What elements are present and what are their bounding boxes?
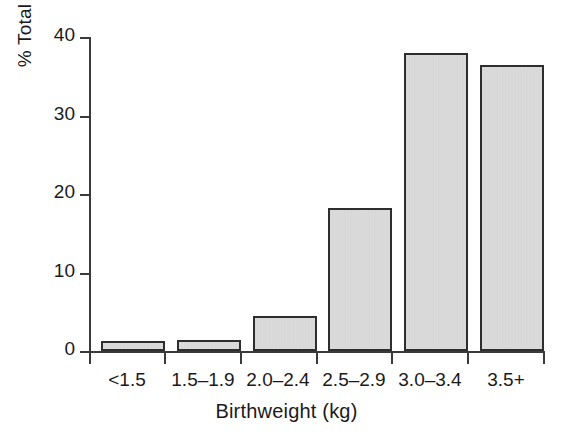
y-tick-label-10: 10 (54, 261, 75, 281)
y-tick-20: 20 (80, 194, 89, 196)
bar-0[interactable] (101, 341, 165, 351)
bar-5[interactable] (480, 65, 544, 351)
x-axis-title: Birthweight (kg) (0, 400, 573, 423)
plot-area: 0 10 20 30 40 <1.5 1.5–1.9 2.0–2.4 (89, 37, 543, 352)
y-tick-10: 10 (80, 273, 89, 275)
x-tick-1 (164, 353, 166, 364)
x-tick-5 (467, 353, 469, 364)
x-tick-2 (240, 353, 242, 364)
x-tick-label-3: 2.5–2.9 (310, 369, 398, 391)
y-tick-30: 30 (80, 116, 89, 118)
y-tick-label-20: 20 (54, 182, 75, 202)
y-tick-label-30: 30 (54, 104, 75, 124)
bar-3[interactable] (328, 208, 392, 351)
bar-2[interactable] (253, 316, 317, 351)
x-tick-label-0: <1.5 (83, 369, 171, 391)
x-tick-label-5: 3.5+ (462, 369, 550, 391)
bar-1[interactable] (177, 340, 241, 351)
y-tick-label-0: 0 (64, 339, 75, 359)
bar-4[interactable] (404, 53, 468, 351)
y-axis-title: % Total births (14, 0, 38, 119)
x-tick-0 (89, 353, 91, 364)
x-tick-label-4: 3.0–3.4 (386, 369, 474, 391)
x-tick-4 (391, 353, 393, 364)
x-tick-3 (316, 353, 318, 364)
x-tick-6 (543, 353, 545, 364)
bar-chart-figure: % Total births 0 10 20 30 40 (0, 0, 573, 445)
y-tick-40: 40 (80, 37, 89, 39)
y-tick-0: 0 (80, 351, 89, 353)
x-tick-label-2: 2.0–2.4 (234, 369, 322, 391)
y-axis-line (89, 37, 91, 353)
y-tick-label-40: 40 (54, 25, 75, 45)
